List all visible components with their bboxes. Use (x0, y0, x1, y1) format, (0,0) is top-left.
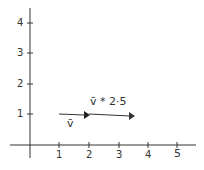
x-tick-label: 3 (116, 150, 122, 160)
vector-v-arrowhead-icon (84, 111, 90, 119)
vector-scaling-diagram: 1 2 3 4 5 1 2 3 4 v̄ v̄ * 2·5 (0, 0, 204, 170)
y-tick-label: 3 (17, 48, 23, 58)
scaled-vector (89, 114, 130, 116)
y-tick-label: 2 (17, 79, 23, 89)
vector-v (59, 114, 84, 115)
vector-v-label: v̄ (67, 118, 74, 129)
y-tick-label: 1 (17, 109, 23, 119)
x-tick-label: 5 (174, 148, 181, 159)
x-tick-label: 4 (145, 150, 151, 160)
x-tick-label: 2 (86, 150, 92, 160)
diagram-canvas (0, 0, 204, 170)
x-tick-label: 1 (56, 150, 62, 160)
scaled-vector-arrowhead-icon (129, 112, 135, 120)
y-tick-label: 4 (17, 18, 23, 28)
scaled-vector-label: v̄ * 2·5 (90, 96, 127, 107)
